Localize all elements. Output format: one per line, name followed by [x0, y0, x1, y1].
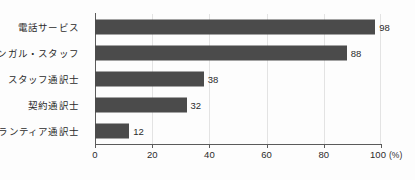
bar-value-label: 12	[129, 126, 144, 137]
x-tick-mark	[324, 144, 325, 148]
bar-row: 契約通訳士 32	[0, 92, 415, 118]
x-tick-label: 0	[92, 149, 97, 160]
x-tick-mark	[95, 144, 96, 148]
bar	[95, 124, 129, 139]
category-label: 契約通訳士	[28, 98, 79, 112]
bar-value-label: 98	[375, 22, 390, 33]
category-label: 電話サービス	[18, 20, 79, 34]
x-tick-label: 100	[370, 149, 386, 160]
bar-track: 32	[95, 98, 381, 113]
x-axis-unit-label: (%)	[389, 150, 402, 160]
x-tick-label: 20	[147, 149, 158, 160]
bar-track: 88	[95, 46, 381, 61]
x-axis-line	[95, 144, 382, 145]
x-tick-label: 40	[204, 149, 215, 160]
category-label: スタッフ通訳士	[8, 72, 79, 86]
bar	[95, 72, 204, 87]
bar	[95, 46, 347, 61]
bar-row: 電話サービス 98	[0, 14, 415, 40]
x-tick-label: 80	[319, 149, 330, 160]
x-tick-mark	[267, 144, 268, 148]
category-label: ボランティア通訳士	[0, 124, 79, 138]
bar	[95, 20, 375, 35]
category-label: バイリンガル・スタッフ	[0, 46, 79, 60]
bar-track: 12	[95, 124, 381, 139]
bar-row: バイリンガル・スタッフ 88	[0, 40, 415, 66]
bar-chart: 電話サービス 98 バイリンガル・スタッフ 88 スタッフ通訳士 38 契約通訳…	[0, 0, 415, 180]
bar-value-label: 32	[187, 100, 202, 111]
bar-row: ボランティア通訳士 12	[0, 118, 415, 144]
bar-track: 98	[95, 20, 381, 35]
x-tick-mark	[209, 144, 210, 148]
x-tick-mark	[152, 144, 153, 148]
x-tick-label: 60	[261, 149, 272, 160]
bar	[95, 98, 187, 113]
bar-value-label: 38	[204, 74, 219, 85]
bar-row: スタッフ通訳士 38	[0, 66, 415, 92]
bar-value-label: 88	[347, 48, 362, 59]
x-tick-mark	[381, 144, 382, 148]
bar-track: 38	[95, 72, 381, 87]
